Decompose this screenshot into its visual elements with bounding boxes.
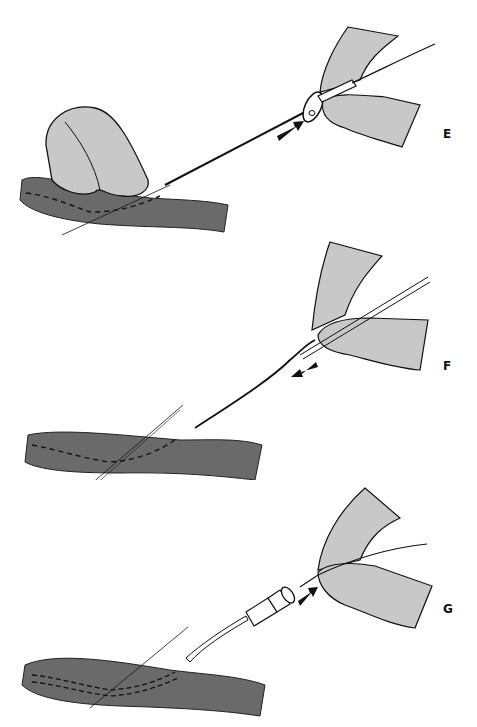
- left-hand-fingers: [46, 107, 148, 196]
- needle: [165, 112, 305, 185]
- guidewire: [195, 340, 315, 428]
- needle-withdrawal-illustration: [0, 240, 477, 480]
- step-label-f: F: [443, 359, 451, 373]
- right-hand-upper: [318, 488, 400, 570]
- right-hand-upper: [312, 242, 382, 330]
- right-hand-lower: [322, 95, 420, 147]
- right-hand-lower: [318, 564, 432, 628]
- catheter-tube: [186, 616, 248, 662]
- step-label-e: E: [443, 127, 451, 141]
- forward-arrow-icon: [298, 587, 318, 606]
- panel-e: E: [0, 0, 477, 240]
- panel-g: G: [0, 480, 477, 727]
- right-hand-lower: [318, 318, 428, 370]
- panel-f: F: [0, 240, 477, 480]
- vessel-shape: [22, 658, 265, 716]
- catheter-insertion-illustration: [0, 480, 477, 727]
- backward-arrow-icon: [291, 362, 318, 377]
- right-hand-upper: [320, 27, 398, 92]
- guidewire-insertion-illustration: [0, 0, 477, 240]
- step-label-g: G: [443, 602, 453, 616]
